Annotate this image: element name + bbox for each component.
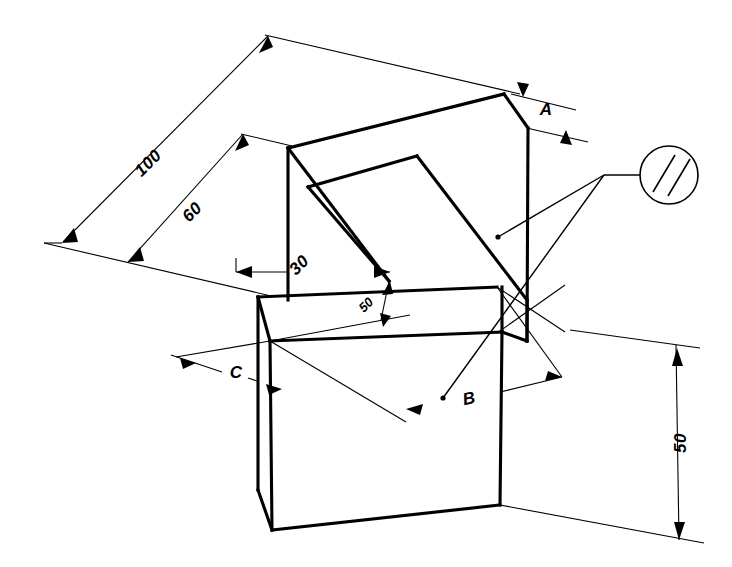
symbol-leader-dot-2	[440, 395, 445, 400]
technical-drawing-canvas: 100 60 30 50 A B C 50	[0, 0, 732, 567]
isometric-part-drawing: 100 60 30 50 A B C 50	[0, 0, 732, 567]
arrow-dim-60-top	[235, 134, 249, 151]
dim-100-line	[63, 36, 268, 242]
base-corner-leader-left	[176, 341, 270, 357]
part-solid-group	[258, 94, 528, 530]
base-right-leader-down	[497, 287, 562, 377]
dim-50-right-extension-bottom	[500, 505, 704, 543]
arrow-dim-30-left	[236, 266, 252, 278]
dim-100-label: 100	[131, 146, 166, 181]
dim-A-label: A	[539, 100, 552, 119]
dim-60-upper-extension	[241, 134, 292, 146]
dim-C-line-left	[171, 355, 222, 372]
base-front-center-vertical-edge	[270, 341, 272, 530]
arrow-dim-60-bottom	[128, 247, 144, 262]
dim-C-label: C	[230, 363, 243, 382]
dim-60-label: 60	[178, 198, 206, 226]
dim-100-upper-extension	[265, 35, 520, 94]
arrow-dim-50-right-top	[672, 348, 683, 366]
dim-50-right-extension-top	[570, 330, 700, 348]
arrow-dim-C-left	[180, 358, 196, 369]
arrow-dim-A-upper	[517, 82, 529, 97]
symbol-leader-dot-1	[495, 234, 500, 239]
dim-50-right-label: 50	[671, 433, 690, 453]
base-right-vertical-edge	[500, 332, 502, 505]
dim-A-extension-lower	[522, 127, 588, 142]
arrow-dim-100-bottom	[62, 228, 78, 243]
